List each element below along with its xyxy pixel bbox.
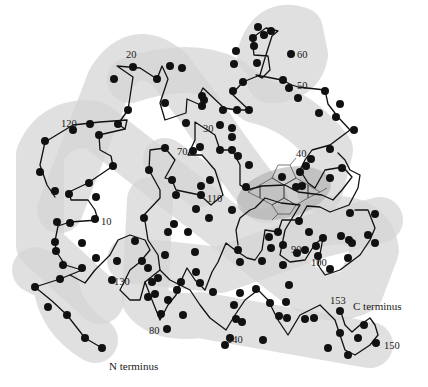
residue-label-153: 153 (330, 295, 346, 306)
c-terminus-label: C terminus (353, 300, 402, 312)
residue-label-130: 130 (114, 276, 130, 287)
protein-ribbon-diagram: 10 20 30 40 50 60 70 80 90 100 110 120 1… (0, 0, 428, 387)
residue-label-110: 110 (207, 193, 222, 204)
residue-label-100: 100 (311, 257, 327, 268)
residue-label-70: 70 (177, 146, 188, 157)
residue-label-10: 10 (101, 216, 112, 227)
residue-label-20: 20 (126, 49, 137, 60)
residue-label-50: 50 (297, 80, 308, 91)
residue-label-140: 140 (227, 334, 243, 345)
residue-label-150: 150 (384, 340, 400, 351)
residue-label-80: 80 (149, 325, 160, 336)
residue-label-90: 90 (291, 244, 302, 255)
residue-label-60: 60 (297, 49, 308, 60)
n-terminus-label: N terminus (109, 360, 158, 372)
residue-label-40: 40 (296, 148, 307, 159)
residue-label-120: 120 (61, 118, 77, 129)
residue-label-30: 30 (203, 123, 214, 134)
